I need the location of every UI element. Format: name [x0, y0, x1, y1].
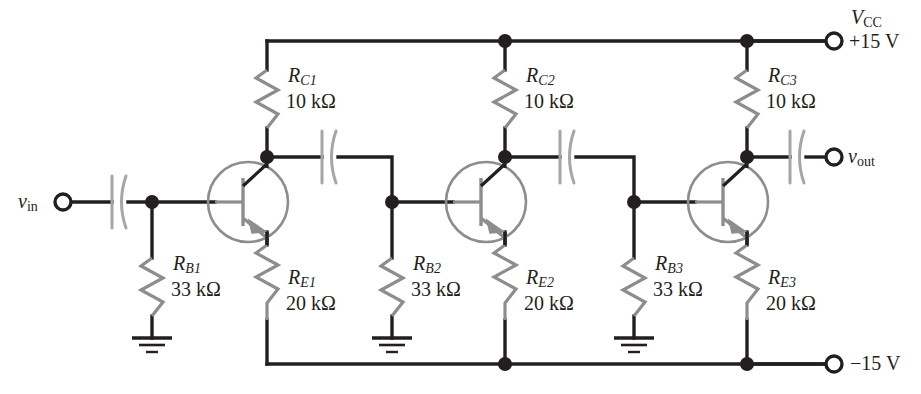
ground-symbol-3 — [614, 338, 654, 352]
label-re2-name: RE2 — [526, 266, 554, 291]
capacitor-coupling-1 — [322, 131, 336, 183]
label-rc1-value: 10 kΩ — [286, 90, 336, 113]
label-rc3-value: 10 kΩ — [766, 90, 816, 113]
resistor-rc2 — [494, 70, 516, 128]
capacitor-output — [790, 131, 804, 183]
terminal-vee — [826, 356, 842, 372]
wire-cap3-to-node3 — [576, 157, 634, 202]
label-rb3-name: RB3 — [655, 252, 683, 277]
label-rb2-name: RB2 — [413, 252, 441, 277]
label-rc3-name: RC3 — [768, 64, 797, 89]
junction-dot — [740, 34, 754, 48]
terminal-vcc — [826, 33, 842, 49]
label-vcc-value: +15 V — [849, 30, 899, 53]
circuit-diagram: vin vout VCC +15 V −15 V RC1 10 kΩ RC2 1… — [0, 0, 921, 394]
junction-dot — [498, 357, 512, 371]
schematic-canvas — [0, 0, 921, 394]
label-re1-name: RE1 — [288, 266, 316, 291]
label-rb2-value: 33 kΩ — [411, 278, 461, 301]
junction-dot — [385, 195, 399, 209]
junction-dot — [627, 195, 641, 209]
resistor-rb3 — [623, 258, 645, 316]
resistor-rc3 — [736, 70, 758, 128]
label-rc1-name: RC1 — [288, 64, 317, 89]
resistor-rb2 — [381, 258, 403, 316]
resistor-rb1 — [141, 258, 163, 316]
resistor-re2 — [494, 245, 516, 320]
junction-dot — [498, 150, 512, 164]
junction-dot — [740, 357, 754, 371]
label-rc2-value: 10 kΩ — [524, 90, 574, 113]
label-vee-value: −15 V — [850, 352, 900, 375]
transistor-q2 — [446, 157, 526, 245]
capacitor-input — [112, 176, 126, 228]
transistor-q3 — [688, 157, 768, 245]
resistor-re3 — [736, 245, 758, 320]
wire-cap2-to-node2 — [338, 157, 392, 202]
label-rb1-name: RB1 — [173, 252, 201, 277]
resistor-rc1 — [256, 70, 278, 128]
label-vout: vout — [848, 145, 875, 170]
junction-dot — [145, 195, 159, 209]
resistor-re1 — [256, 245, 278, 320]
ground-symbol-2 — [372, 338, 412, 352]
label-re3-name: RE3 — [768, 266, 796, 291]
label-re2-value: 20 kΩ — [524, 292, 574, 315]
junction-dot — [260, 150, 274, 164]
terminal-vin — [55, 194, 71, 210]
ground-symbol-1 — [132, 338, 172, 352]
label-vcc: VCC — [851, 6, 882, 31]
label-re3-value: 20 kΩ — [766, 292, 816, 315]
label-vin: vin — [18, 190, 38, 215]
terminal-vout — [826, 149, 842, 165]
label-rb3-value: 33 kΩ — [653, 278, 703, 301]
label-re1-value: 20 kΩ — [286, 292, 336, 315]
label-rb1-value: 33 kΩ — [171, 278, 221, 301]
junction-dot — [498, 34, 512, 48]
transistor-q1 — [208, 157, 288, 245]
junction-dot — [740, 150, 754, 164]
label-rc2-name: RC2 — [526, 64, 555, 89]
capacitor-coupling-2 — [560, 131, 574, 183]
